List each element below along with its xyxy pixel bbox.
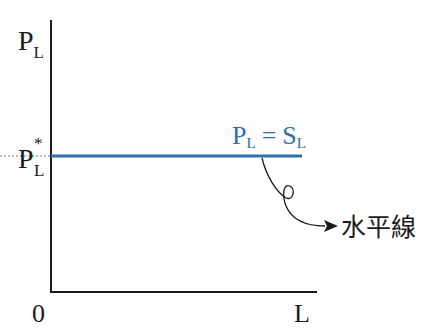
equilibrium-price-sup: * [34, 134, 43, 153]
origin-label: 0 [32, 299, 45, 328]
equilibrium-price-sub: L [34, 161, 44, 180]
arrow-head-icon [324, 220, 338, 232]
horizontal-line-annotation: 水平線 [341, 213, 416, 242]
y-axis-label: PL [18, 25, 44, 62]
x-axis-label: L [294, 299, 310, 328]
equilibrium-price-label: P [18, 143, 34, 174]
diagram-canvas: PL P * L PL=SL 水平線 0 L [0, 0, 431, 333]
supply-curve-label: PL=SL [232, 121, 306, 151]
diagram-svg: PL P * L PL=SL 水平線 0 L [0, 0, 431, 333]
leader-curve [262, 158, 325, 226]
